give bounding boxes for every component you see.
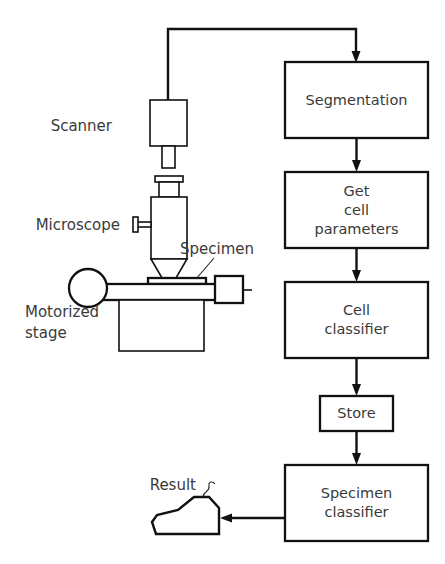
arrow-specimen-classifier-to-result <box>220 514 285 523</box>
pipeline-box-specimen-classifier[interactable]: Specimen classifier <box>285 465 428 541</box>
diagram-svg: Scanner Microscope Specimen <box>0 0 445 564</box>
microscope-objective-cone <box>151 259 187 278</box>
pipeline-box-get-cell-parameters[interactable]: Get cell parameters <box>285 172 428 248</box>
specimen-label: Specimen <box>180 240 254 258</box>
microscope-focus-knob <box>133 217 138 232</box>
stage-drive-knob <box>69 269 107 307</box>
motorized-stage-label-line2: stage <box>25 324 67 342</box>
scanner-apparatus <box>150 100 187 168</box>
pipeline-box-cell-classifier[interactable]: Cell classifier <box>285 282 428 358</box>
result-leader-curl <box>203 482 215 497</box>
cell-classifier-box-outline <box>285 282 428 358</box>
microscope-label: Microscope <box>36 216 120 234</box>
scanner-body <box>150 100 187 146</box>
microscope-apparatus <box>133 176 187 278</box>
arrow-head-icon <box>352 384 361 396</box>
stage-motor-block <box>215 276 243 303</box>
specimen-classifier-box-outline <box>285 465 428 541</box>
result-label: Result <box>150 476 196 494</box>
segmentation-box-label: Segmentation <box>306 92 408 108</box>
cell-classifier-label-line1: Cell <box>343 302 370 318</box>
arrow-head-icon <box>352 453 361 465</box>
get-cell-parameters-label-line3: parameters <box>314 221 398 237</box>
specimen-classifier-label-line2: classifier <box>324 504 388 520</box>
specimen-leader-line <box>196 258 214 279</box>
cell-classifier-label-line2: classifier <box>324 321 388 337</box>
arrow-head-icon <box>352 160 361 172</box>
get-cell-parameters-label-line1: Get <box>344 183 370 199</box>
arrow-segmentation-to-parameters <box>352 138 361 172</box>
arrow-parameters-to-cell-classifier <box>352 248 361 282</box>
specimen-classifier-label-line1: Specimen <box>321 485 393 501</box>
pipeline-box-store[interactable]: Store <box>320 396 393 431</box>
arrow-store-to-specimen-classifier <box>352 431 361 465</box>
diagram-canvas: Scanner Microscope Specimen <box>0 0 445 564</box>
result-printout-outline <box>152 497 219 534</box>
microscope-focus-arm <box>137 222 151 227</box>
arrow-cell-classifier-to-store <box>352 358 361 396</box>
arrow-head-icon <box>220 514 232 523</box>
store-box-label: Store <box>337 405 375 421</box>
motorized-stage-label-line1: Motorized <box>25 303 99 321</box>
arrow-head-icon <box>352 270 361 282</box>
microscope-eyepiece-tube <box>159 182 179 197</box>
stage-pedestal <box>119 300 204 351</box>
scanner-label: Scanner <box>51 117 113 135</box>
get-cell-parameters-label-line2: cell <box>344 202 369 218</box>
scanner-neck <box>162 146 175 168</box>
stage-plate <box>90 284 222 300</box>
microscope-eyepiece-flange <box>155 176 183 182</box>
pipeline-box-segmentation[interactable]: Segmentation <box>285 62 428 138</box>
